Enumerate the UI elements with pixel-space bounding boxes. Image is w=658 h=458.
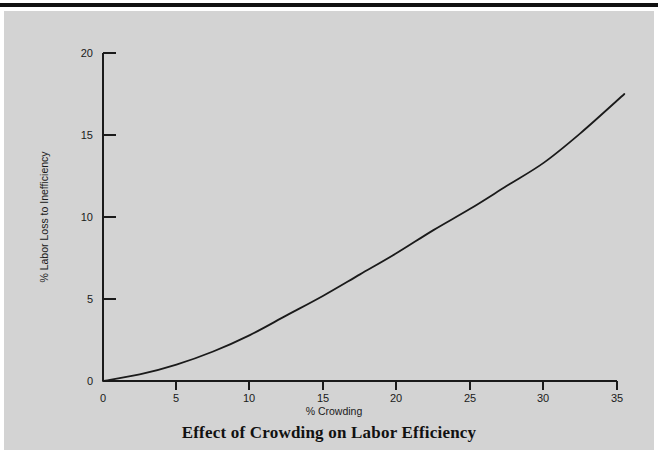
y-tick-label-0: 0 [87,375,93,387]
x-tick-label-5: 5 [173,392,179,404]
figure-page: 20 15 10 5 0 0 5 10 15 20 25 30 35 % Lab… [0,0,658,458]
y-axis-title: % Labor Loss to Inefficiency [38,151,50,283]
x-tick-label-25: 25 [464,392,476,404]
y-tick-label-5: 5 [87,293,93,305]
line-chart: 20 15 10 5 0 0 5 10 15 20 25 30 35 % Lab… [0,0,658,458]
x-tick-label-30: 30 [537,392,549,404]
x-tick-label-35: 35 [611,392,623,404]
x-axis-ticks [176,381,617,390]
x-tick-label-0: 0 [100,392,106,404]
y-tick-label-20: 20 [81,47,93,59]
y-tick-label-10: 10 [81,211,93,223]
x-tick-label-15: 15 [317,392,329,404]
y-axis-ticks [103,53,116,299]
x-tick-label-10: 10 [243,392,255,404]
chart-title: Effect of Crowding on Labor Efficiency [0,423,658,443]
data-series-line [103,94,624,381]
x-axis-title: % Crowding [306,405,363,417]
y-tick-label-15: 15 [81,129,93,141]
x-tick-label-20: 20 [390,392,402,404]
